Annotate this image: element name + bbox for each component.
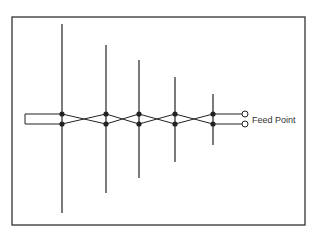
junction-dot xyxy=(59,121,64,126)
junction-dot xyxy=(136,111,141,116)
junction-dot xyxy=(210,121,215,126)
junction-dot xyxy=(172,111,177,116)
feed-point-label: Feed Point xyxy=(252,115,296,125)
feed-terminal-icon xyxy=(242,111,248,117)
junction-dot xyxy=(172,121,177,126)
feed-terminal-icon xyxy=(242,121,248,127)
junction-dot xyxy=(59,111,64,116)
junction-dot xyxy=(210,111,215,116)
junction-dot xyxy=(103,121,108,126)
junction-dot xyxy=(136,121,141,126)
junction-dot xyxy=(103,111,108,116)
lpda-diagram: Feed Point xyxy=(0,0,316,237)
boom-end-stub xyxy=(25,114,62,124)
